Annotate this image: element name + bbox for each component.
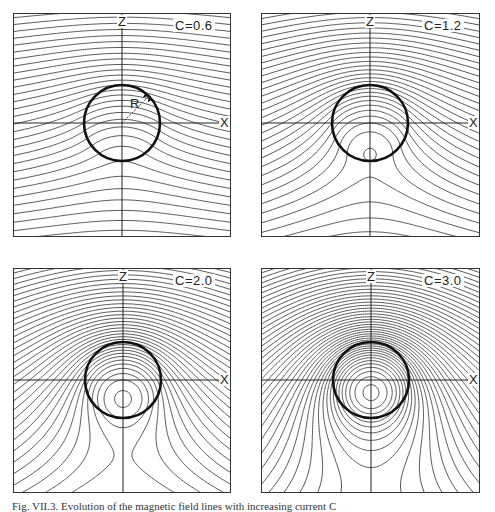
panel-c-1-2: ZXC=1.2 (261, 13, 480, 237)
x-axis-label: X (468, 116, 479, 129)
figure-caption: Fig. VII.3. Evolution of the magnetic fi… (12, 500, 336, 512)
current-parameter-label: C=3.0 (422, 274, 464, 287)
field-line-plot (13, 13, 231, 237)
z-axis-label: Z (365, 15, 375, 28)
current-parameter-label: C=2.0 (173, 274, 215, 287)
x-axis-label: X (219, 373, 230, 386)
field-line-plot (261, 268, 480, 493)
radius-label: R (129, 97, 140, 110)
current-parameter-label: C=0.6 (173, 19, 215, 32)
z-axis-label: Z (117, 15, 127, 28)
panel-c-0-6: RZXC=0.6 (13, 13, 231, 237)
panel-c-2-0: ZXC=2.0 (13, 268, 231, 493)
panel-c-3-0: ZXC=3.0 (261, 268, 480, 493)
z-axis-label: Z (118, 270, 128, 283)
x-axis-label: X (468, 373, 479, 386)
current-parameter-label: C=1.2 (422, 19, 464, 32)
z-axis-label: Z (366, 270, 376, 283)
field-line-plot (261, 13, 480, 237)
x-axis-label: X (219, 116, 230, 129)
field-line-plot (13, 268, 231, 493)
